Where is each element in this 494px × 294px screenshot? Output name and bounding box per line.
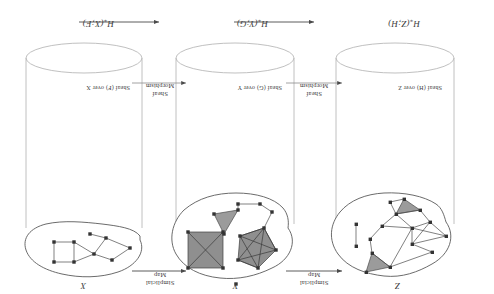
- top-arrow-right-label: Simplicial Map: [138, 271, 182, 287]
- middle-arrow-right-label: Sheaf Morphism: [136, 82, 184, 98]
- middle-arrow-left-line2: Morphism: [290, 82, 338, 90]
- homology-arg-Y: (Y;G): [237, 19, 258, 29]
- homology-H-Z: H: [413, 19, 420, 29]
- middle-arrow-right-line2: Morphism: [136, 82, 184, 90]
- figure-canvas: Z Sheaf (H) over Z: [0, 0, 494, 294]
- homology-arg-X: (X;F): [83, 19, 104, 29]
- homology-label-Z: H*(Z;H): [388, 16, 420, 29]
- top-arrow-left-line2: Map: [292, 271, 336, 279]
- homology-sub-Y: *: [258, 16, 262, 24]
- top-arrow-right-line1: Simplicial: [138, 279, 182, 287]
- homology-H-Y: H: [261, 19, 268, 29]
- top-arrow-left-line1: Simplicial: [292, 279, 336, 287]
- homology-label-X: H*(X;F): [83, 16, 114, 29]
- homology-arg-Z: (Z;H): [388, 19, 410, 29]
- middle-arrow-right-line1: Sheaf: [136, 90, 184, 98]
- homology-sub-X: *: [104, 16, 108, 24]
- top-arrow-right-line2: Map: [138, 271, 182, 279]
- homology-sub-Z: *: [410, 16, 414, 24]
- homology-H-X: H: [107, 19, 114, 29]
- top-arrow-left-label: Simplicial Map: [292, 271, 336, 287]
- middle-arrow-left-line1: Sheaf: [290, 90, 338, 98]
- rotated-figure-group: Z Sheaf (H) over Z: [0, 0, 494, 294]
- middle-arrow-left-label: Sheaf Morphism: [290, 82, 338, 98]
- connector-arrows: [0, 0, 494, 294]
- homology-label-Y: H*(Y;G): [237, 16, 268, 29]
